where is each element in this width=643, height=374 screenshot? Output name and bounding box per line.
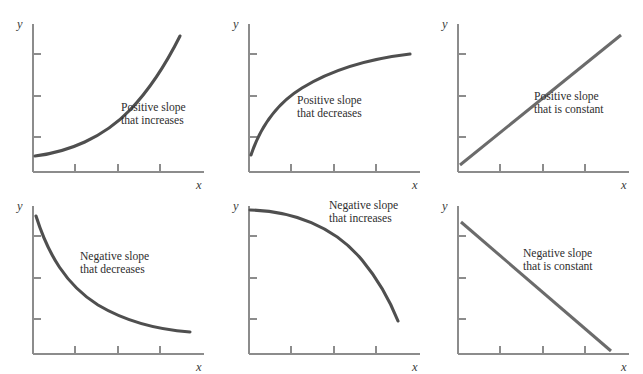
- x-axis-label: x: [195, 360, 202, 374]
- x-axis-label: x: [620, 360, 627, 374]
- data-curve: [461, 222, 611, 351]
- annotation-positive-constant: Positive slope that is constant: [534, 90, 604, 117]
- panel-positive-constant: y x Positive slope that is constant: [433, 6, 643, 193]
- panel-negative-constant: y x Negative slope that is constant: [433, 188, 643, 374]
- annotation-line-2: that is constant: [534, 103, 604, 116]
- y-axis-label: y: [440, 199, 448, 213]
- data-curve: [35, 36, 180, 156]
- panel-positive-decreases: y x Positive slope that decreases: [224, 6, 437, 193]
- y-axis-label: y: [15, 199, 23, 213]
- y-axis-label: y: [440, 17, 448, 31]
- annotation-line-1: Positive slope: [297, 94, 362, 107]
- annotation-negative-constant: Negative slope that is constant: [523, 247, 593, 274]
- annotation-negative-decreases: Negative slope that decreases: [80, 250, 149, 277]
- y-axis-label: y: [231, 17, 239, 31]
- annotation-line-1: Positive slope: [121, 101, 186, 114]
- panel-positive-increases: y x Positive slope that increases: [8, 6, 221, 193]
- slope-types-figure: y x Positive slope that increases y x Po…: [0, 0, 643, 374]
- annotation-line-2: that increases: [121, 114, 186, 127]
- panel-negative-increases: y x Negative slope that increases: [224, 188, 437, 374]
- data-curve: [250, 210, 398, 321]
- annotation-positive-increases: Positive slope that increases: [121, 101, 186, 128]
- plot-canvas-negative-decreases: y x: [8, 188, 221, 374]
- annotation-line-2: that decreases: [80, 263, 149, 276]
- annotation-negative-increases: Negative slope that increases: [329, 199, 398, 226]
- y-axis-label: y: [15, 17, 23, 31]
- annotation-positive-decreases: Positive slope that decreases: [297, 94, 362, 121]
- panel-negative-decreases: y x Negative slope that decreases: [8, 188, 221, 374]
- annotation-line-1: Positive slope: [534, 90, 604, 103]
- plot-canvas-positive-increases: y x: [8, 6, 221, 193]
- y-axis-label: y: [231, 199, 239, 213]
- annotation-line-2: that increases: [329, 212, 398, 225]
- plot-canvas-negative-constant: y x: [433, 188, 643, 374]
- annotation-line-1: Negative slope: [329, 199, 398, 212]
- x-axis-label: x: [411, 360, 418, 374]
- annotation-line-1: Negative slope: [523, 247, 593, 260]
- annotation-line-1: Negative slope: [80, 250, 149, 263]
- annotation-line-2: that is constant: [523, 260, 593, 273]
- annotation-line-2: that decreases: [297, 107, 362, 120]
